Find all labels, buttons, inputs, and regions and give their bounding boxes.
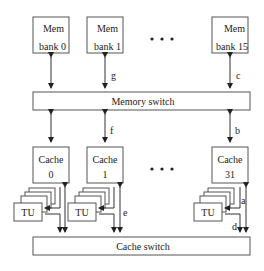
svg-text:Mem: Mem: [43, 23, 64, 34]
svg-text:Mem: Mem: [97, 23, 118, 34]
svg-text:Memory switch: Memory switch: [111, 96, 174, 107]
tu-stack-31: TU a d: [194, 187, 246, 232]
ellipsis-middle: [150, 167, 173, 170]
svg-text:Cache: Cache: [93, 154, 119, 165]
svg-text:Mem: Mem: [224, 23, 245, 34]
label-b: b: [235, 125, 240, 136]
memory-switch: Memory switch: [33, 92, 250, 110]
label-e: e: [123, 207, 128, 218]
svg-text:TU: TU: [21, 207, 35, 218]
svg-text:1: 1: [103, 169, 108, 180]
label-g: g: [111, 70, 116, 81]
cache-1: Cache 1: [87, 147, 123, 183]
ellipsis-top: [150, 37, 173, 40]
mem-bank-1: Mem bank 1: [87, 17, 123, 53]
cache-switch: Cache switch: [33, 237, 250, 255]
svg-text:31: 31: [225, 169, 235, 180]
label-d: d: [232, 221, 237, 232]
label-f: f: [110, 125, 114, 136]
tu-stack-0: TU: [14, 187, 65, 232]
svg-text:Cache switch: Cache switch: [116, 241, 170, 252]
cache-31: Cache 31: [212, 147, 248, 183]
svg-text:TU: TU: [201, 207, 215, 218]
memory-hierarchy-diagram: Mem bank 0 Mem bank 1 Mem bank 15 Memory…: [0, 0, 264, 271]
label-c: c: [236, 70, 241, 81]
label-a: a: [241, 195, 246, 206]
mem-bank-0: Mem bank 0: [33, 17, 69, 53]
svg-text:0: 0: [49, 169, 54, 180]
cache-0: Cache 0: [33, 147, 69, 183]
svg-text:bank 0: bank 0: [39, 41, 66, 52]
svg-text:Cache: Cache: [218, 154, 244, 165]
mem-bank-15: Mem bank 15: [212, 17, 248, 53]
svg-text:bank 15: bank 15: [216, 41, 248, 52]
svg-text:TU: TU: [75, 207, 89, 218]
svg-text:bank 1: bank 1: [94, 41, 121, 52]
tu-stack-1: TU e: [68, 187, 128, 232]
svg-text:Cache: Cache: [39, 154, 65, 165]
